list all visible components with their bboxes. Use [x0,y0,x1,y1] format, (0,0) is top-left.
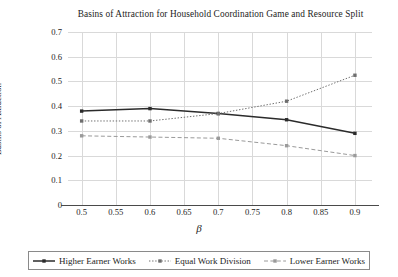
data-point-marker [148,107,151,110]
data-point-marker [148,135,151,138]
data-point-marker [217,112,220,115]
legend-swatch-icon [149,257,171,265]
x-tick-label: 0.9 [350,207,361,217]
y-axis-tick-labels: 00.10.20.30.40.50.60.7 [22,32,62,205]
x-tick-label: 0.7 [213,207,224,217]
data-point-marker [353,132,356,135]
plot-area [68,32,372,205]
data-point-marker [353,74,356,77]
chart-legend: Higher Earner WorksEqual Work DivisionLo… [28,251,370,270]
legend-item[interactable]: Equal Work Division [149,256,251,266]
data-point-marker [80,109,83,112]
x-axis-label: β [0,222,398,234]
legend-swatch-icon [264,257,286,265]
y-tick-label: 0.5 [28,76,62,86]
legend-item[interactable]: Lower Earner Works [264,256,365,266]
y-tick-label: 0.1 [28,175,62,185]
legend-swatch-icon [33,257,55,265]
legend-label: Lower Earner Works [290,256,365,266]
x-tick-label: 0.55 [108,207,123,217]
y-tick-label: 0.7 [28,27,62,37]
x-tick-label: 0.8 [281,207,292,217]
legend-label: Equal Work Division [175,256,251,266]
data-point-marker [80,119,83,122]
y-tick-label: 0 [28,200,62,210]
series-layer [68,32,372,205]
y-axis-label: Basins of Attraction [0,83,3,155]
x-tick-label: 0.75 [245,207,260,217]
chart-title: Basins of Attraction for Household Coord… [48,9,393,19]
x-tick-label: 0.65 [177,207,192,217]
x-tick-label: 0.6 [145,207,156,217]
y-tick-label: 0.6 [28,52,62,62]
x-tick-label: 0.5 [76,207,87,217]
legend-label: Higher Earner Works [59,256,136,266]
data-point-marker [148,119,151,122]
chart-container: Basins of Attraction for Household Coord… [0,0,398,277]
data-point-marker [217,137,220,140]
x-tick-label: 0.85 [313,207,328,217]
data-point-marker [285,118,288,121]
y-tick-label: 0.3 [28,126,62,136]
legend-item[interactable]: Higher Earner Works [33,256,136,266]
y-tick-label: 0.4 [28,101,62,111]
data-point-marker [80,134,83,137]
data-point-marker [285,144,288,147]
data-point-marker [285,100,288,103]
y-tick-label: 0.2 [28,151,62,161]
data-point-marker [353,154,356,157]
